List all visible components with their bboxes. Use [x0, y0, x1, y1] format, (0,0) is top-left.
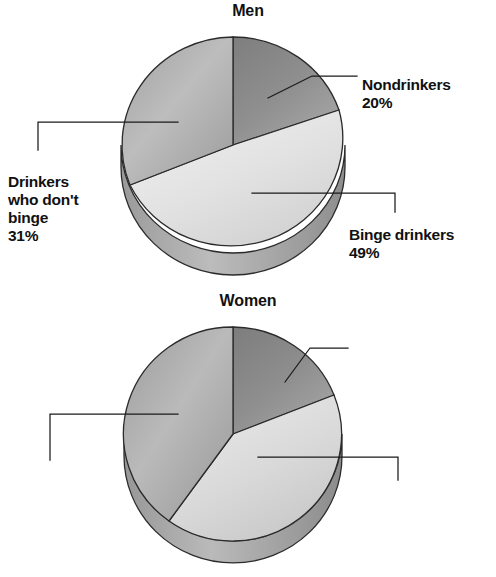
callout-name-men-drinkers: Drinkers who don't binge	[8, 173, 78, 226]
pie-slices-women	[123, 327, 341, 541]
pie-chart-men: Men	[0, 0, 496, 290]
pie-chart-women: Women	[0, 290, 496, 577]
callout-pct-men-nondrinkers: 20%	[362, 94, 496, 112]
callout-name-men-nondrinkers: Nondrinkers	[362, 76, 451, 93]
pie-slices-men	[122, 37, 343, 246]
callout-pct-men-binge: 49%	[349, 244, 496, 262]
pie-graphic-women	[0, 290, 496, 577]
callout-name-men-binge: Binge drinkers	[349, 226, 454, 243]
callout-label-men-nondrinkers: Nondrinkers 20%	[362, 58, 496, 130]
callout-label-men-binge: Binge drinkers 49%	[349, 208, 496, 280]
callout-label-men-drinkers: Drinkers who don't binge 31%	[8, 155, 148, 263]
callout-pct-men-drinkers: 31%	[8, 227, 148, 245]
